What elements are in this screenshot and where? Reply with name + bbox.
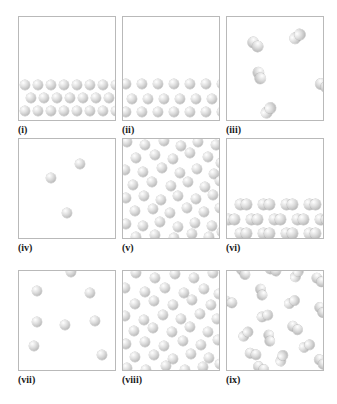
atom-sphere bbox=[158, 310, 168, 320]
atom-sphere bbox=[211, 140, 220, 150]
atom-sphere bbox=[122, 339, 131, 349]
atom-sphere bbox=[183, 177, 193, 187]
atom-sphere bbox=[98, 80, 108, 90]
atom-sphere bbox=[189, 273, 199, 283]
atom-sphere bbox=[185, 322, 195, 332]
diatomic-molecule bbox=[226, 214, 240, 225]
atom-sphere bbox=[199, 207, 209, 217]
atom-sphere bbox=[215, 176, 220, 186]
diatomic-molecule bbox=[310, 271, 324, 289]
panel-ii: (ii) bbox=[122, 16, 222, 138]
atom-sphere bbox=[213, 335, 220, 345]
diatomic-molecule bbox=[313, 301, 324, 320]
panel-iv: (iv) bbox=[18, 138, 118, 270]
atom-sphere bbox=[167, 327, 177, 337]
simulation-box-ix bbox=[226, 270, 324, 371]
panel-v: (v) bbox=[122, 138, 222, 270]
diatomic-molecule bbox=[292, 214, 309, 225]
atom-sphere bbox=[131, 232, 141, 239]
atom-sphere bbox=[138, 221, 148, 231]
simulation-box-iii bbox=[226, 16, 324, 121]
diatomic-molecule bbox=[235, 199, 252, 210]
atom-sphere bbox=[20, 80, 30, 90]
atom-sphere bbox=[137, 107, 147, 117]
diatomic-molecule bbox=[281, 228, 298, 239]
atom-sphere bbox=[46, 173, 56, 183]
atom-sphere bbox=[130, 299, 140, 309]
atom-sphere bbox=[98, 106, 108, 116]
atom-sphere bbox=[46, 106, 56, 116]
diatomic-molecule bbox=[258, 199, 275, 210]
atom-sphere bbox=[153, 107, 163, 117]
diatomic-molecule bbox=[304, 228, 321, 239]
panel-i: (i) bbox=[18, 16, 118, 138]
diatomic-molecule bbox=[282, 294, 301, 311]
atom-sphere bbox=[214, 289, 220, 299]
atom-sphere bbox=[32, 317, 42, 327]
atom-sphere bbox=[217, 227, 220, 237]
atom-sphere bbox=[122, 107, 131, 117]
atom-sphere bbox=[122, 363, 132, 371]
atom-sphere bbox=[321, 214, 324, 225]
atom-sphere bbox=[182, 203, 192, 213]
atom-sphere bbox=[269, 270, 282, 278]
atom-sphere bbox=[39, 93, 49, 103]
atom-sphere bbox=[215, 203, 220, 213]
atom-sphere bbox=[143, 94, 153, 104]
diatomic-molecule bbox=[256, 309, 275, 324]
atom-sphere bbox=[201, 107, 211, 117]
atom-sphere bbox=[175, 94, 185, 104]
atom-sphere bbox=[20, 106, 30, 116]
atom-sphere bbox=[139, 191, 149, 201]
atom-sphere bbox=[122, 219, 131, 229]
atom-sphere bbox=[175, 168, 185, 178]
panel-label-viii: (viii) bbox=[122, 374, 142, 385]
atom-sphere bbox=[91, 93, 101, 103]
atom-sphere bbox=[159, 94, 169, 104]
atom-sphere bbox=[187, 229, 197, 239]
atom-sphere bbox=[215, 359, 220, 369]
diatomic-molecule bbox=[254, 283, 268, 301]
atom-sphere bbox=[165, 208, 175, 218]
atom-sphere bbox=[59, 106, 69, 116]
diatomic-molecule bbox=[298, 338, 317, 354]
atom-sphere bbox=[161, 361, 171, 371]
atom-sphere bbox=[226, 297, 238, 310]
atom-sphere bbox=[75, 159, 85, 169]
atom-sphere bbox=[29, 341, 39, 351]
atom-sphere bbox=[186, 349, 196, 359]
atom-sphere bbox=[97, 350, 107, 360]
atom-sphere bbox=[140, 287, 150, 297]
atom-sphere bbox=[122, 138, 132, 147]
atom-sphere bbox=[141, 365, 151, 371]
atom-sphere bbox=[185, 79, 195, 89]
panel-ix: (ix) bbox=[226, 270, 326, 396]
simulation-box-v bbox=[122, 138, 220, 239]
atom-sphere bbox=[199, 284, 209, 294]
atom-sphere bbox=[187, 295, 197, 305]
atom-sphere bbox=[264, 335, 276, 347]
atom-sphere bbox=[204, 353, 214, 363]
atom-sphere bbox=[33, 106, 43, 116]
atom-sphere bbox=[131, 153, 141, 163]
atom-sphere bbox=[159, 138, 169, 146]
atom-sphere bbox=[90, 316, 100, 326]
atom-sphere bbox=[153, 79, 163, 89]
diatomic-molecule bbox=[226, 295, 238, 310]
panel-label-i: (i) bbox=[18, 124, 27, 135]
diatomic-molecule bbox=[287, 27, 307, 46]
atom-sphere bbox=[212, 314, 220, 324]
atom-sphere bbox=[241, 199, 252, 210]
atom-sphere bbox=[208, 270, 218, 278]
diatomic-molecule bbox=[274, 349, 289, 368]
atom-sphere bbox=[156, 195, 166, 205]
atom-sphere bbox=[148, 204, 158, 214]
atom-sphere bbox=[206, 300, 216, 310]
atom-sphere bbox=[176, 314, 186, 324]
atom-sphere bbox=[149, 296, 159, 306]
diatomic-molecule bbox=[315, 214, 324, 225]
atom-sphere bbox=[159, 341, 169, 351]
atom-sphere bbox=[195, 309, 205, 319]
diatomic-molecule bbox=[289, 270, 306, 284]
atom-sphere bbox=[33, 80, 43, 90]
